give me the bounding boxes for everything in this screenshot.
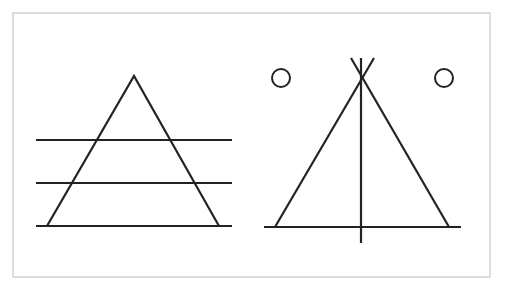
right-circle-icon xyxy=(435,69,453,87)
tipi-right-pole xyxy=(351,58,449,227)
frame-border xyxy=(13,13,490,277)
left-circle-icon xyxy=(272,69,290,87)
right-figure-tipi xyxy=(264,58,461,243)
tipi-left-pole xyxy=(275,58,374,227)
diagram-canvas xyxy=(0,0,508,288)
left-horizontal-lines xyxy=(36,140,232,226)
diagram-svg xyxy=(0,0,508,288)
left-figure-triangle-with-lines xyxy=(36,76,232,226)
left-triangle xyxy=(47,76,219,226)
